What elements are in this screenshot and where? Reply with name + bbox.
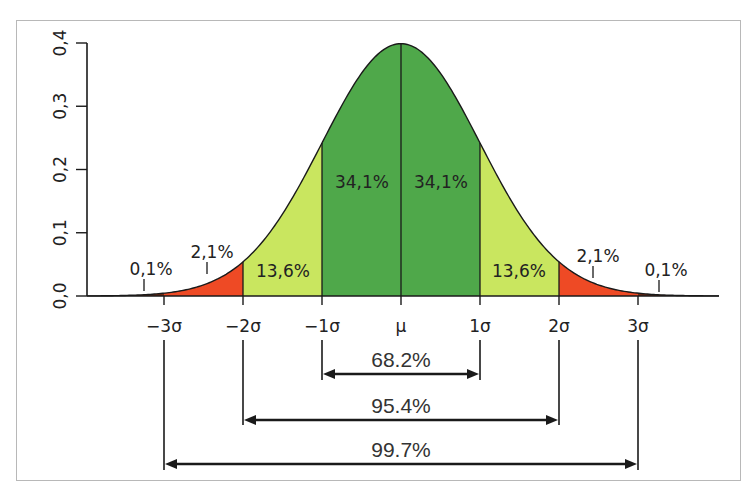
y-tick-label: 0,2 [50, 156, 70, 183]
range-percent-label: 99.7% [371, 438, 431, 461]
x-tick-label: 3σ [627, 316, 649, 336]
x-tick-label: −3σ [146, 316, 182, 336]
band-percent-label: 34,1% [414, 172, 468, 192]
y-tick-label: 0,3 [50, 93, 70, 120]
arrow-left-icon [323, 369, 335, 379]
normal-distribution-chart: 0,00,10,20,30,4−3σ−2σ−1σμ1σ2σ3σ 34,1%34,… [0, 0, 754, 498]
band-3 [401, 44, 480, 296]
y-tick-label: 0,4 [50, 29, 70, 56]
band-5 [559, 262, 638, 296]
tail-percent-label: 2,1% [576, 246, 619, 266]
y-tick-label: 0,1 [50, 219, 70, 246]
range-percent-label: 95.4% [371, 394, 431, 417]
x-tick-label: μ [396, 316, 407, 336]
x-tick-label: −1σ [304, 316, 340, 336]
range-brackets: 68.2%95.4%99.7% [164, 340, 638, 470]
x-tick-label: 2σ [548, 316, 570, 336]
band-percent-label: 13,6% [256, 261, 310, 281]
band-percent-label: 13,6% [492, 261, 546, 281]
x-tick-label: −2σ [225, 316, 261, 336]
range-bracket-68.2%: 68.2% [322, 340, 480, 380]
arrow-left-icon [244, 415, 256, 425]
arrow-right-icon [546, 415, 558, 425]
y-tick-label: 0,0 [50, 282, 70, 309]
arrow-right-icon [467, 369, 479, 379]
x-tick-label: 1σ [469, 316, 491, 336]
band-2 [322, 44, 401, 296]
band-percent-label: 34,1% [335, 172, 389, 192]
range-percent-label: 68.2% [371, 348, 431, 371]
tail-percent-label: 0,1% [644, 260, 687, 280]
arrow-right-icon [625, 459, 637, 469]
arrow-left-icon [165, 459, 177, 469]
tail-percent-label: 2,1% [190, 242, 233, 262]
band-0 [164, 262, 243, 296]
tail-percent-label: 0,1% [129, 259, 172, 279]
